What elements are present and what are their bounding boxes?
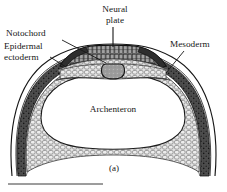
label-neural-plate: Neural plate [92,4,138,25]
panel-label: (a) [92,163,136,174]
notochord-structure [102,64,125,79]
label-archenteron: Archenteron [68,104,158,115]
label-epidermal-ectoderm: Epidermal ectoderm [4,41,66,62]
label-notochord: Notochord [6,28,82,39]
label-mesoderm: Mesoderm [170,39,226,50]
